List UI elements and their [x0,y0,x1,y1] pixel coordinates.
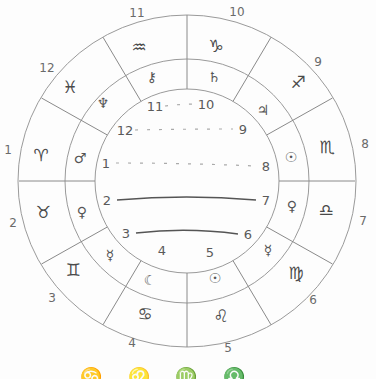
planet-chiron-icon: ⚷ [147,69,157,85]
sign-leo-icon: ♌ [213,306,228,326]
house-cusp-line [103,261,141,325]
planet-venus-icon: ♀ [287,198,297,214]
planet-mercury-icon: ☿ [264,242,273,258]
house-cusp-line [267,98,333,135]
outer-house-number: 7 [359,214,367,228]
planet-neptune-icon: ♆ [97,95,110,111]
house-cusp-line [42,227,108,264]
house-connection-dashed [135,129,233,130]
house-connection-solid [117,197,256,200]
outer-house-number: 5 [224,341,232,355]
sign-aquarius-icon: ♒ [131,37,146,57]
inner-house-number: 9 [239,122,247,137]
inner-house-number: 1 [102,156,110,171]
outer-house-number: 4 [128,336,136,350]
inner-house-number: 7 [262,193,270,208]
house-connection-solid [136,230,238,234]
planet-sun-icon: ☉ [285,149,298,165]
house-cusp-line [233,37,271,101]
inner-house-number: 3 [122,226,130,241]
house-connection-dashed [116,163,256,166]
sign-pisces-icon: ♓ [62,77,77,97]
inner-house-number: 2 [103,193,111,208]
inner-house-number: 8 [262,159,270,174]
sign-libra-icon: ♎ [318,200,333,220]
outer-house-number: 6 [309,293,317,307]
planet-moon-icon: ☾ [144,272,157,288]
planet-saturn-icon: ♄ [208,69,221,85]
sign-taurus-icon: ♉ [35,202,50,222]
outer-house-number: 10 [229,5,244,19]
sign-sagittarius-icon: ♐ [290,72,305,92]
outer-house-number: 12 [39,61,54,75]
sign-scorpio-icon: ♏ [319,137,334,157]
inner-house-number: 6 [244,227,252,242]
planet-venus-icon: ♀ [77,204,87,220]
inner-house-number: 11 [147,99,164,114]
planet-mars-icon: ♂ [74,150,87,166]
planet-sun-icon: ☉ [209,270,222,286]
outer-house-number: 1 [4,143,12,157]
sign-aries-icon: ♈ [33,145,48,165]
house-connection-dashed [165,104,196,106]
inner-house-number: 5 [206,245,214,260]
inner-house-number: 10 [198,97,215,112]
planet-mercury-icon: ☿ [106,247,115,263]
planet-jupiter-icon: ♃ [257,102,270,118]
outer-house-number: 9 [314,55,322,69]
sign-gemini-icon: ♊ [65,260,80,280]
house-cusp-line [267,227,333,264]
sign-capricorn-icon: ♑ [208,36,223,56]
outer-house-number: 3 [48,291,56,305]
inner-house-number: 12 [117,123,134,138]
inner-house-number: 4 [158,243,166,258]
outer-house-number: 8 [361,137,369,151]
inner-ring [95,89,279,273]
sign-cancer-icon: ♋ [137,304,152,324]
outer-house-number: 2 [9,216,17,230]
house-cusp-line [233,261,271,325]
sign-virgo-icon: ♍ [288,263,303,283]
outer-house-number: 11 [129,6,144,20]
caption-text: ♋ ♌ ♍ ♎ ♏ [80,366,300,379]
